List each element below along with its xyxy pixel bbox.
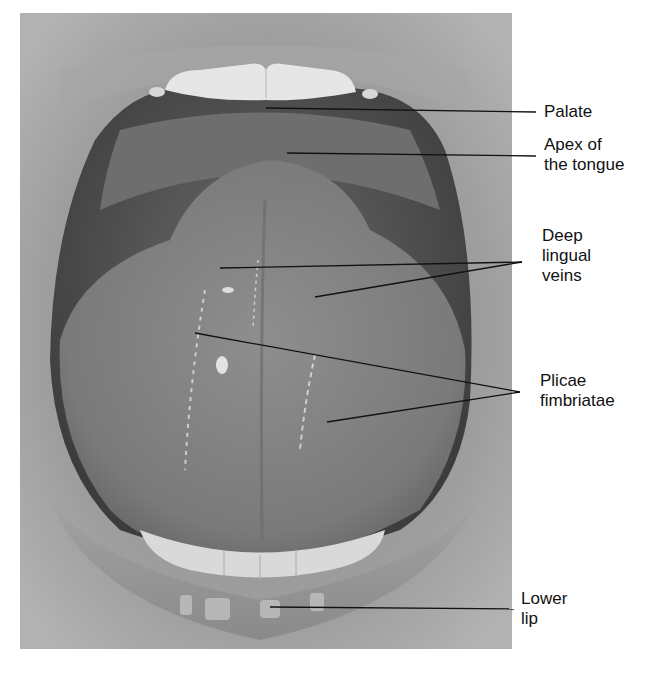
label-palate: Palate	[544, 102, 592, 122]
label-line: veins	[542, 266, 591, 286]
label-plicae-fimbriatae: Plicae fimbriatae	[540, 371, 615, 411]
label-line: Deep	[542, 226, 591, 246]
label-line: Palate	[544, 102, 592, 122]
label-line: Apex of	[544, 135, 624, 155]
label-apex-of-the-tongue: Apex of the tongue	[544, 135, 624, 175]
label-lower-lip: Lower lip	[521, 589, 567, 629]
label-line: fimbriatae	[540, 391, 615, 411]
label-deep-lingual-veins: Deep lingual veins	[542, 226, 591, 286]
label-line: Lower	[521, 589, 567, 609]
label-line: the tongue	[544, 155, 624, 175]
label-line: lip	[521, 609, 567, 629]
label-line: lingual	[542, 246, 591, 266]
label-line: Plicae	[540, 371, 615, 391]
